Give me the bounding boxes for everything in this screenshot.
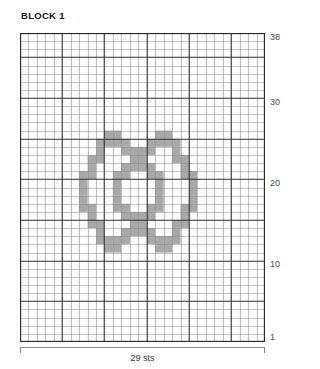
- page-title: BLOCK 1: [21, 10, 65, 21]
- row-label-38: 38: [270, 33, 280, 42]
- row-label-30: 30: [270, 98, 280, 107]
- row-label-20: 20: [270, 179, 280, 188]
- row-label-10: 10: [270, 260, 280, 269]
- chart-grid-canvas: [20, 33, 265, 342]
- width-bracket-bar: [20, 347, 265, 348]
- row-label-1: 1: [270, 333, 275, 342]
- width-label: 29 sts: [20, 353, 265, 363]
- stitch-chart-grid: [20, 33, 265, 342]
